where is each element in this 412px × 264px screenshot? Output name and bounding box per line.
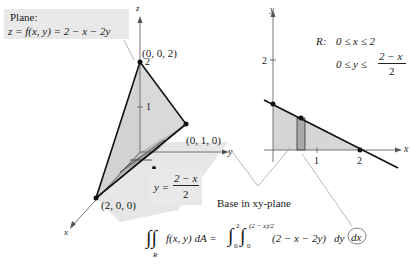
region-line1: 0 ≤ x ≤ 2: [336, 35, 375, 47]
integral-region-sub: R: [153, 251, 157, 259]
double-integral-sign: ∫∫: [146, 226, 157, 248]
point-x-intercept-label: (2, 0, 0): [101, 199, 136, 211]
dx-leader: [302, 154, 352, 226]
inner-lower: 0: [247, 242, 251, 250]
x-tick-1: 1: [314, 155, 319, 167]
region-line2-den: 2: [389, 65, 395, 77]
boundary-label-bar: [173, 185, 199, 186]
region-line2-lhs: 0 ≤ y ≤: [336, 58, 367, 70]
boundary-label-den: 2: [183, 188, 189, 200]
y-tick-2: 2: [262, 55, 267, 67]
boundary-label-lhs: y =: [154, 181, 169, 193]
vertical-strip: [297, 118, 305, 150]
integrand: (2 − x − 2y): [272, 232, 326, 244]
caption-base: Base in xy-plane: [217, 197, 291, 209]
z-axis-label: z: [136, 2, 140, 14]
outer-integral-sign: ∫: [228, 224, 233, 246]
region-name: R:: [316, 35, 326, 47]
x-tick-2: 2: [357, 155, 362, 167]
z-tick-1: 1: [146, 101, 151, 113]
caption-leader: [231, 148, 290, 186]
y-axis-2d-label: y: [270, 3, 274, 15]
boundary-label-num: 2 − x: [174, 172, 197, 184]
integral-dx: dx: [351, 231, 361, 243]
region-line2-bar: [378, 63, 406, 64]
z-tick-2: 2: [145, 56, 150, 68]
y-axis-3d-label: y: [228, 146, 232, 158]
inner-upper: (2 − x)/2: [249, 222, 274, 230]
integral-lhs: f(x, y) dA =: [166, 232, 217, 244]
x-axis-2d-label: x: [404, 143, 408, 155]
inner-integral-sign: ∫: [240, 224, 245, 246]
x-axis-3d-label: x: [64, 226, 68, 238]
outer-upper: 2: [236, 222, 240, 230]
outer-lower: 0: [234, 242, 238, 250]
point-y-intercept-label: (0, 1, 0): [186, 134, 221, 146]
integral-dy: dy: [334, 232, 344, 244]
region-line2-num: 2 − x: [379, 50, 402, 62]
